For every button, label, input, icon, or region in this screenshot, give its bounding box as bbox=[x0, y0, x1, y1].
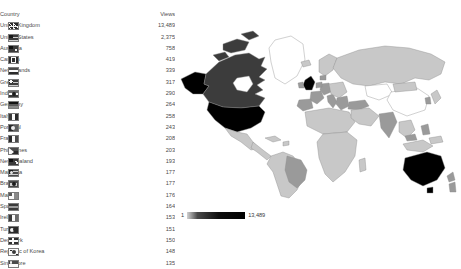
brazil-flag bbox=[8, 180, 19, 188]
united-kingdom-flag bbox=[8, 22, 19, 30]
cell-views: 153 bbox=[123, 212, 175, 223]
cell-views: 317 bbox=[123, 77, 175, 88]
region-russia bbox=[333, 46, 445, 86]
cell-country: Portugal bbox=[0, 122, 123, 133]
cell-views: 203 bbox=[123, 145, 175, 156]
table-row[interactable]: United Kingdom13,489 bbox=[0, 20, 175, 31]
table-row[interactable]: Australia758 bbox=[0, 43, 175, 54]
table-row[interactable]: United States2,375 bbox=[0, 32, 175, 43]
table-row[interactable]: Singapore135 bbox=[0, 258, 175, 269]
column-header-country: Country bbox=[0, 9, 123, 20]
italy-flag bbox=[8, 113, 19, 121]
table-row[interactable]: Greece317 bbox=[0, 77, 175, 88]
germany-flag bbox=[8, 101, 19, 109]
cell-views: 243 bbox=[123, 122, 175, 133]
table-row[interactable]: Canada419 bbox=[0, 54, 175, 65]
india-flag bbox=[8, 90, 19, 98]
australia-flag bbox=[8, 45, 19, 53]
cell-views: 264 bbox=[123, 99, 175, 110]
cell-views: 2,375 bbox=[123, 32, 175, 43]
cell-views: 13,489 bbox=[123, 20, 175, 31]
cell-views: 290 bbox=[123, 88, 175, 99]
region-north-africa bbox=[305, 108, 355, 134]
france-flag bbox=[8, 135, 19, 143]
cell-views: 177 bbox=[123, 167, 175, 178]
table-row[interactable]: Malta176 bbox=[0, 190, 175, 201]
table-row[interactable]: India290 bbox=[0, 88, 175, 99]
region-china bbox=[387, 88, 429, 116]
table-row[interactable]: Italy258 bbox=[0, 111, 175, 122]
denmark-flag bbox=[8, 237, 19, 245]
cell-views: 151 bbox=[123, 224, 175, 235]
table-row[interactable]: Ireland153 bbox=[0, 212, 175, 223]
new-zealand-flag bbox=[8, 158, 19, 166]
region-balkans-greece bbox=[336, 96, 349, 110]
turkey-flag bbox=[8, 226, 19, 234]
region-indonesia bbox=[403, 140, 433, 152]
region-greenland bbox=[269, 36, 305, 84]
region-netherlands bbox=[316, 82, 322, 88]
cell-country: Ireland bbox=[0, 212, 123, 223]
table-row[interactable]: New Zealand193 bbox=[0, 156, 175, 167]
cell-country: Singapore bbox=[0, 258, 123, 269]
cell-views: 419 bbox=[123, 54, 175, 65]
cell-views: 193 bbox=[123, 156, 175, 167]
cell-views: 758 bbox=[123, 43, 175, 54]
world-map-panel: 1 13,489 bbox=[175, 0, 461, 265]
table-row[interactable]: Portugal243 bbox=[0, 122, 175, 133]
cell-country: Malaysia bbox=[0, 167, 123, 178]
cell-country: Denmark bbox=[0, 235, 123, 246]
cell-views: 258 bbox=[123, 111, 175, 122]
legend-gradient-bar bbox=[187, 212, 245, 219]
cell-country: United States bbox=[0, 32, 123, 43]
world-choropleth-map[interactable] bbox=[179, 22, 457, 204]
cell-views: 176 bbox=[123, 190, 175, 201]
cell-country: Greece bbox=[0, 77, 123, 88]
table-row[interactable]: France208 bbox=[0, 133, 175, 144]
table-row[interactable]: Brazil177 bbox=[0, 178, 175, 189]
table-row[interactable]: Turkey151 bbox=[0, 224, 175, 235]
ireland-flag bbox=[8, 214, 19, 222]
region-denmark bbox=[320, 75, 326, 80]
spain-flag bbox=[8, 203, 19, 211]
region-ireland bbox=[298, 82, 304, 88]
cell-views: 208 bbox=[123, 133, 175, 144]
philippines-flag bbox=[8, 147, 19, 155]
table-row[interactable]: Spain164 bbox=[0, 201, 175, 212]
cell-country: Philippines bbox=[0, 145, 123, 156]
region-caribbean bbox=[265, 136, 289, 146]
world-map-svg bbox=[179, 22, 457, 204]
region-papua-new-guinea bbox=[429, 136, 443, 144]
region-japan bbox=[431, 90, 441, 104]
canada-flag bbox=[8, 56, 19, 64]
table-row[interactable]: Netherlands339 bbox=[0, 65, 175, 76]
table-row[interactable]: Germany264 bbox=[0, 99, 175, 110]
malaysia-flag bbox=[8, 169, 19, 177]
region-madagascar bbox=[359, 158, 366, 172]
cell-country: Netherlands bbox=[0, 65, 123, 76]
country-views-table-panel: Country Views United Kingdom13,489United… bbox=[0, 0, 175, 265]
malta-flag bbox=[8, 192, 19, 200]
portugal-flag bbox=[8, 124, 19, 132]
region-korea bbox=[425, 97, 431, 104]
region-mongolia bbox=[393, 82, 417, 92]
legend-min-label: 1 bbox=[181, 211, 184, 219]
region-new-zealand bbox=[447, 172, 456, 192]
region-sub-saharan-africa bbox=[317, 132, 357, 182]
table-header: Country Views bbox=[0, 9, 175, 20]
table-row[interactable]: Malaysia177 bbox=[0, 167, 175, 178]
table-row[interactable]: Denmark150 bbox=[0, 235, 175, 246]
table-row[interactable]: Philippines203 bbox=[0, 145, 175, 156]
cell-views: 339 bbox=[123, 65, 175, 76]
cell-country: France bbox=[0, 133, 123, 144]
table-row[interactable]: Republic of Korea148 bbox=[0, 246, 175, 257]
country-views-table: Country Views United Kingdom13,489United… bbox=[0, 9, 175, 269]
cell-country: Germany bbox=[0, 99, 123, 110]
table-header-row: Country Views bbox=[0, 9, 175, 20]
greece-flag bbox=[8, 79, 19, 87]
cell-country: New Zealand bbox=[0, 156, 123, 167]
region-france bbox=[310, 91, 324, 104]
cell-country: Malta bbox=[0, 190, 123, 201]
map-legend: 1 13,489 bbox=[181, 211, 265, 219]
